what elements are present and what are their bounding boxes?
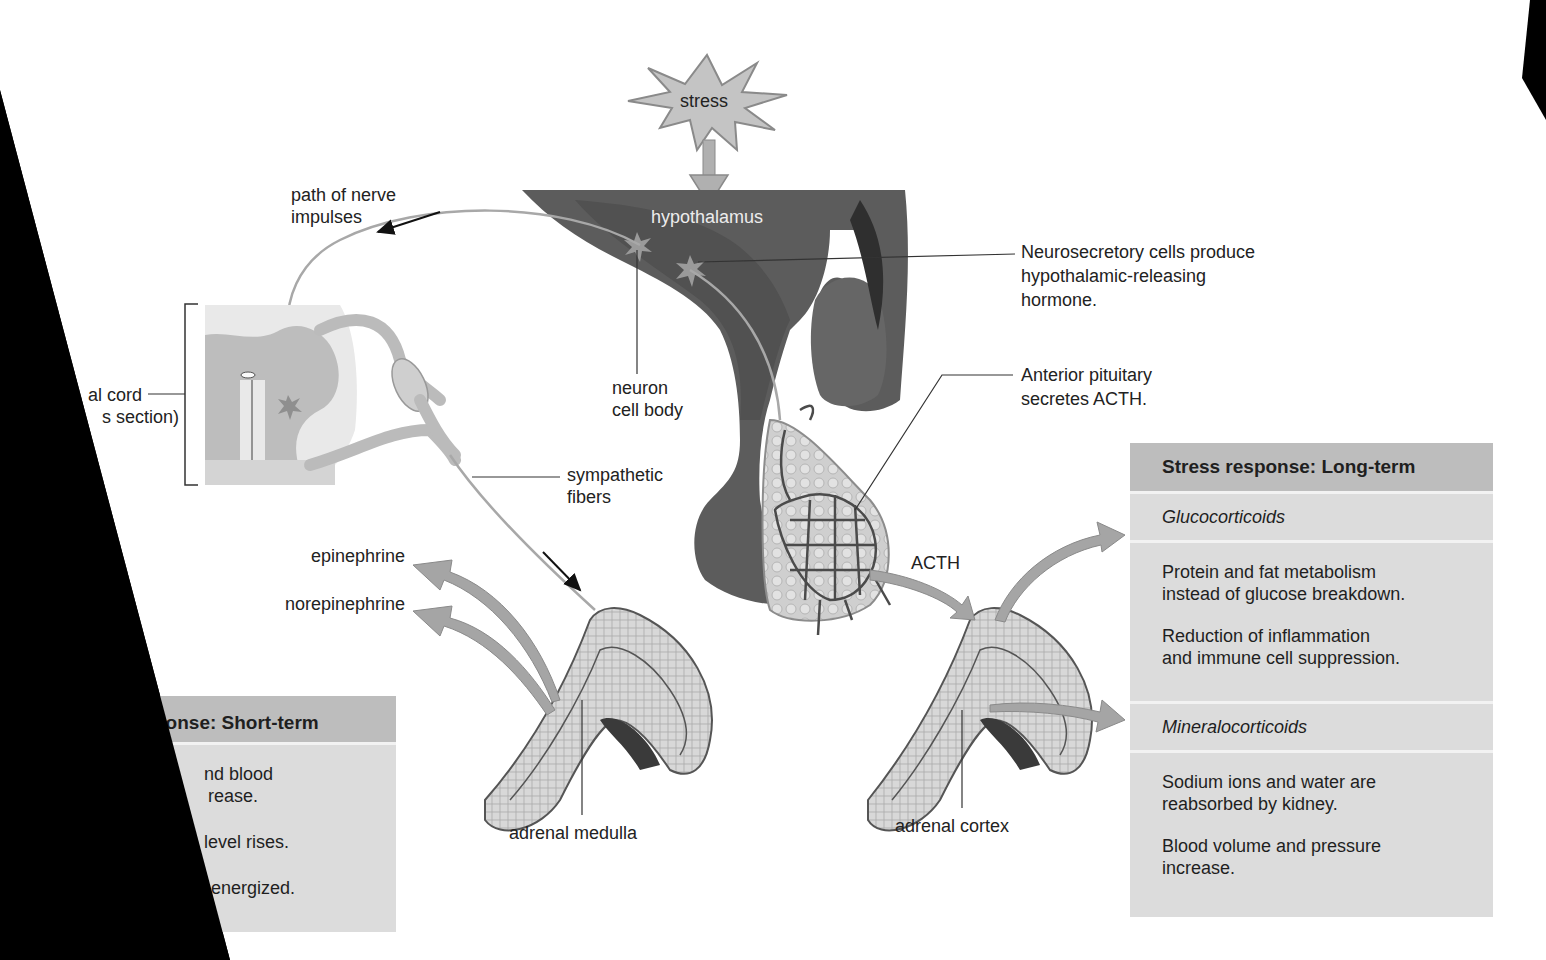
scan-edge-overlay — [0, 0, 1546, 960]
